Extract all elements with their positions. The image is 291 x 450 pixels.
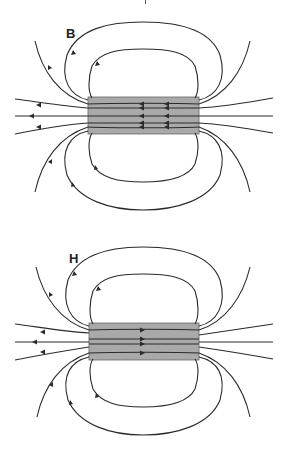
field-line-outer-top-loop: [65, 22, 222, 100]
field-line-left-lower: [15, 123, 88, 134]
field-line-outer-top-loop: [66, 247, 222, 326]
field-line-outer-bottom-loop: [66, 357, 222, 435]
field-line-inner-top-loop: [89, 49, 198, 98]
field-line-sweep-bottom-right: [199, 127, 250, 192]
field-line-sweep-top-left: [36, 267, 89, 330]
field-line-inner-bottom-loop: [90, 359, 198, 407]
field-line-sweep-top-right: [199, 267, 250, 330]
panel-h: H: [0, 225, 291, 450]
field-line-inner-top-loop: [90, 274, 198, 324]
field-line-sweep-bottom-left: [35, 127, 88, 192]
h-field-diagram: [0, 225, 291, 450]
field-line-right-lower: [199, 347, 273, 359]
magnet-bar: [89, 323, 199, 360]
field-line-sweep-top-right: [199, 41, 250, 104]
field-line-sweep-bottom-left: [37, 353, 89, 417]
field-line-outer-bottom-loop: [65, 131, 222, 210]
panel-b: B: [0, 0, 291, 225]
field-line-sweep-top-left: [35, 41, 88, 104]
field-line-sweep-bottom-right: [199, 353, 250, 417]
b-field-diagram: [0, 0, 291, 225]
field-line-inner-bottom-loop: [89, 133, 198, 182]
